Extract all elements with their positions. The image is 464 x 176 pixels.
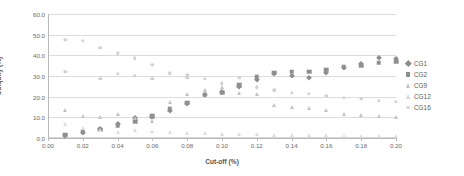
- data-point: [185, 131, 189, 135]
- triangle-glyph: [406, 83, 410, 88]
- y-tick-label: 50.0: [33, 31, 45, 38]
- legend-item-cg12[interactable]: CG12: [404, 91, 462, 102]
- data-point: [359, 113, 363, 117]
- circle-marker-icon: [404, 104, 412, 112]
- y-tick-label: 20.0: [33, 93, 45, 100]
- legend-label: CG12: [414, 93, 431, 101]
- gridline: [48, 55, 396, 56]
- x-tick-mark: [257, 138, 258, 141]
- x-tick-mark: [222, 138, 223, 141]
- triangle-glyph: [406, 94, 410, 99]
- x-tick-label: 0.06: [146, 142, 158, 149]
- circle-glyph: [406, 106, 410, 110]
- data-point: [342, 134, 346, 138]
- data-point: [63, 122, 67, 126]
- scatter-chart: 0.010.020.030.040.050.060.0 0.000.020.04…: [0, 0, 464, 176]
- data-point: [81, 126, 85, 130]
- triangle-marker-icon: [404, 93, 412, 101]
- data-point: [237, 91, 241, 95]
- x-tick-label: 0.18: [355, 142, 367, 149]
- x-tick-label: 0.16: [320, 142, 332, 149]
- x-tick-label: 0.14: [286, 142, 298, 149]
- triangle-marker-icon: [404, 82, 412, 90]
- y-tick-label: 30.0: [33, 73, 45, 80]
- data-point: [220, 85, 224, 89]
- data-point: [377, 114, 381, 118]
- data-point: [168, 100, 172, 104]
- data-point: [133, 128, 137, 132]
- gridline: [48, 35, 396, 36]
- x-tick-mark: [326, 138, 327, 141]
- data-point: [202, 92, 207, 97]
- x-tick-mark: [83, 138, 84, 141]
- data-point: [168, 130, 172, 134]
- y-tick-label: 10.0: [33, 114, 45, 121]
- x-tick-mark: [187, 138, 188, 141]
- legend-label: CG9: [414, 82, 427, 90]
- data-point: [289, 70, 294, 75]
- data-point: [307, 106, 311, 110]
- data-point: [98, 115, 102, 119]
- legend-item-cg1[interactable]: CG1: [404, 58, 462, 69]
- data-point: [394, 100, 397, 103]
- data-point: [376, 60, 381, 65]
- data-point: [394, 115, 398, 119]
- gridline: [48, 14, 396, 15]
- data-point: [150, 114, 155, 119]
- data-point: [324, 133, 328, 137]
- data-point: [290, 133, 294, 137]
- data-point: [63, 108, 67, 112]
- data-point: [203, 88, 207, 92]
- data-point: [255, 132, 259, 136]
- data-point: [307, 70, 312, 75]
- data-point: [377, 134, 381, 138]
- y-tick-label: 40.0: [33, 52, 45, 59]
- data-point: [220, 132, 224, 136]
- data-point: [237, 83, 242, 88]
- legend-label: CG1: [414, 60, 427, 68]
- data-point: [220, 90, 225, 95]
- data-point: [116, 112, 120, 116]
- data-point: [359, 134, 363, 138]
- data-point: [255, 75, 260, 80]
- square-glyph: [406, 72, 411, 77]
- chart-legend: CG1CG2CG9CG12CG16: [404, 58, 462, 113]
- data-point: [307, 133, 311, 137]
- x-tick-mark: [292, 138, 293, 141]
- legend-item-cg9[interactable]: CG9: [404, 80, 462, 91]
- legend-item-cg16[interactable]: CG16: [404, 102, 462, 113]
- x-tick-label: 0.10: [216, 142, 228, 149]
- x-tick-mark: [48, 138, 49, 141]
- data-point: [185, 101, 190, 106]
- data-point: [324, 108, 328, 112]
- legend-label: CG16: [414, 104, 431, 112]
- y-axis-line: [48, 14, 49, 138]
- data-point: [115, 123, 120, 128]
- data-point: [359, 63, 364, 68]
- y-tick-label: 0.0: [36, 135, 45, 142]
- x-tick-label: 0.00: [42, 142, 54, 149]
- y-axis-title: Ubiquity (%): [0, 26, 2, 126]
- data-point: [81, 130, 86, 135]
- legend-item-cg2[interactable]: CG2: [404, 69, 462, 80]
- y-tick-label: 60.0: [33, 11, 45, 18]
- data-point: [272, 103, 276, 107]
- data-point: [150, 129, 154, 133]
- data-point: [168, 107, 173, 112]
- data-point: [342, 112, 346, 116]
- data-point: [272, 71, 277, 76]
- square-marker-icon: [404, 71, 412, 79]
- diamond-marker-icon: [404, 60, 412, 68]
- x-tick-label: 0.02: [77, 142, 89, 149]
- data-point: [150, 119, 154, 123]
- x-tick-mark: [152, 138, 153, 141]
- data-point: [342, 64, 347, 69]
- data-point: [116, 130, 120, 134]
- data-point: [394, 134, 398, 138]
- legend-label: CG2: [414, 71, 427, 79]
- data-point: [272, 133, 276, 137]
- data-point: [290, 105, 294, 109]
- data-point: [133, 116, 137, 120]
- data-point: [324, 68, 329, 73]
- data-point: [63, 133, 68, 138]
